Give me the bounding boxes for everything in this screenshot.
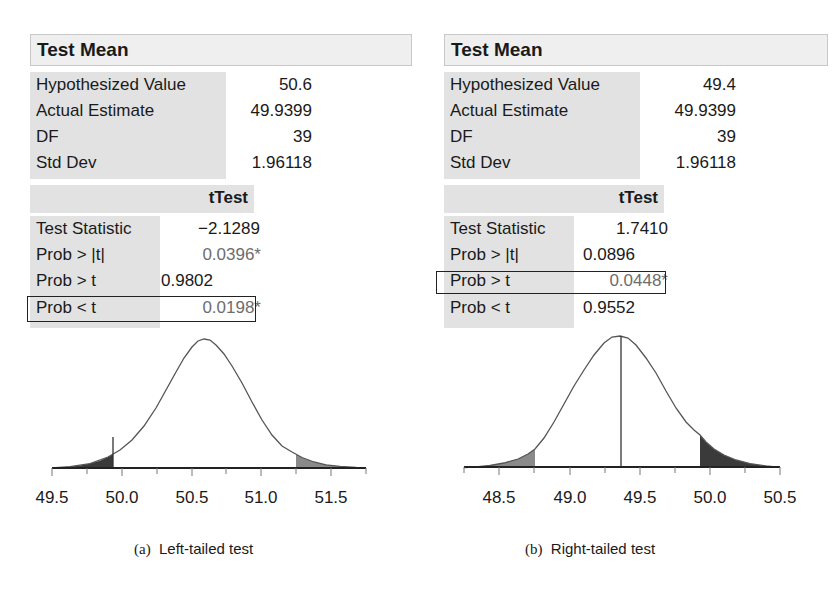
row-value: 50.6 <box>279 73 312 97</box>
x-tick-label: 48.5 <box>482 488 515 507</box>
test-mean-title: Test Mean <box>451 39 543 61</box>
test-mean-header: Test Mean <box>444 34 828 66</box>
x-tick-label: 51.0 <box>244 488 277 507</box>
test-mean-row: Std Dev 1.96118 <box>30 151 320 175</box>
row-value: 39 <box>717 125 736 149</box>
row-label: Prob > |t| <box>450 243 519 267</box>
caption-tag: (a) <box>134 541 151 557</box>
test-mean-row: DF 39 <box>444 125 738 149</box>
ttest-title: tTest <box>619 188 658 208</box>
ttest-row: Prob > |t| 0.0896 <box>444 243 676 267</box>
row-label: Actual Estimate <box>450 99 568 123</box>
t-distribution-plot-left: 49.5 50.0 50.5 51.0 51.5 <box>0 330 416 530</box>
row-value: 49.9399 <box>675 99 736 123</box>
row-value: 1.7410 <box>616 217 668 241</box>
row-label: Hypothesized Value <box>450 73 600 97</box>
x-tick-label: 50.0 <box>105 488 138 507</box>
row-value: 49.4 <box>703 73 736 97</box>
test-mean-header: Test Mean <box>30 34 412 66</box>
ttest-header: tTest <box>444 185 664 213</box>
x-axis-ticks <box>464 467 780 475</box>
test-mean-row: Std Dev 1.96118 <box>444 151 738 175</box>
row-label: Actual Estimate <box>36 99 154 123</box>
x-tick-label: 49.0 <box>553 488 586 507</box>
row-value: 49.9399 <box>251 99 312 123</box>
right-tail-shade-dark <box>700 435 780 467</box>
caption-a: (a) Left-tailed test <box>134 540 253 558</box>
caption-b: (b) Right-tailed test <box>525 540 655 558</box>
density-curve <box>52 339 366 468</box>
ttest-row: Prob < t 0.9552 <box>444 296 676 320</box>
row-value: 0.9802 <box>161 269 213 293</box>
row-label: DF <box>450 125 473 149</box>
highlight-box <box>436 271 666 294</box>
row-value: 1.96118 <box>252 151 312 175</box>
ttest-row: Prob > t 0.9802 <box>30 269 268 293</box>
caption-tag: (b) <box>525 541 543 557</box>
left-tail-shade-light <box>464 449 535 468</box>
row-label: DF <box>36 125 59 149</box>
row-label: Prob > |t| <box>36 243 105 267</box>
test-mean-title: Test Mean <box>37 39 129 61</box>
t-distribution-plot-right: 48.5 49.0 49.5 50.0 50.5 <box>414 330 830 530</box>
row-value: 39 <box>293 125 312 149</box>
row-label: Std Dev <box>36 151 96 175</box>
row-value: 0.9552 <box>583 296 635 320</box>
panel-right-tailed: Test Mean Hypothesized Value 49.4 Actual… <box>414 0 830 590</box>
test-mean-row: Hypothesized Value 50.6 <box>30 73 320 97</box>
ttest-row: Test Statistic −2.1289 <box>30 217 268 241</box>
x-tick-label: 49.5 <box>35 488 68 507</box>
density-curve <box>464 336 780 468</box>
x-axis-ticks <box>52 468 366 476</box>
ttest-header: tTest <box>30 185 254 213</box>
test-mean-row: Actual Estimate 49.9399 <box>30 99 320 123</box>
row-value: 1.96118 <box>676 151 736 175</box>
x-tick-label: 51.5 <box>314 488 347 507</box>
test-mean-row: Actual Estimate 49.9399 <box>444 99 738 123</box>
row-label: Std Dev <box>450 151 510 175</box>
x-tick-label: 50.5 <box>763 488 796 507</box>
row-label: Prob < t <box>450 296 510 320</box>
caption-text: Left-tailed test <box>159 540 253 557</box>
x-tick-label: 50.0 <box>693 488 726 507</box>
row-label: Prob > t <box>36 269 96 293</box>
ttest-row: Prob > |t| 0.0396* <box>30 243 268 267</box>
ttest-row: Test Statistic 1.7410 <box>444 217 676 241</box>
x-tick-label: 50.5 <box>175 488 208 507</box>
left-tail-shade-dark <box>52 454 113 468</box>
row-label: Test Statistic <box>450 217 545 241</box>
row-value-significant: 0.0396* <box>202 243 261 267</box>
row-value: −2.1289 <box>198 217 260 241</box>
caption-text: Right-tailed test <box>551 540 655 557</box>
panel-left-tailed: Test Mean Hypothesized Value 50.6 Actual… <box>0 0 416 590</box>
test-mean-row: Hypothesized Value 49.4 <box>444 73 738 97</box>
x-tick-label: 49.5 <box>623 488 656 507</box>
highlight-box <box>27 296 256 322</box>
ttest-title: tTest <box>209 188 248 208</box>
row-label: Test Statistic <box>36 217 131 241</box>
test-mean-row: DF 39 <box>30 125 320 149</box>
row-label: Hypothesized Value <box>36 73 186 97</box>
row-value: 0.0896 <box>583 243 635 267</box>
